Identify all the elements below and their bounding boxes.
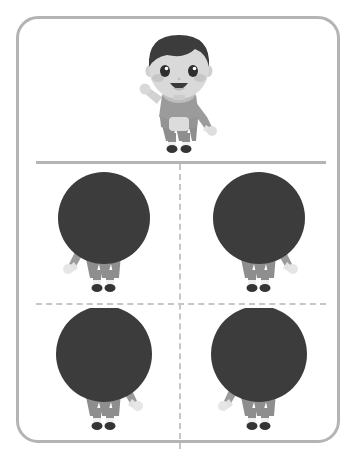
silhouette-figure-svg: [41, 170, 165, 302]
silhouette-figure-svg: [41, 308, 165, 440]
silhouette-figure-svg: [196, 308, 320, 440]
head: [149, 35, 209, 100]
shoes: [167, 145, 192, 153]
head-cover-circle: [211, 308, 307, 402]
choice-bottom-left[interactable]: [41, 308, 165, 440]
example-panel: [19, 19, 337, 161]
choice-top-right[interactable]: [196, 170, 320, 302]
shoes: [247, 284, 271, 292]
choice-top-left[interactable]: [41, 170, 165, 302]
cartoon-boy-example[interactable]: [132, 31, 226, 155]
shoes: [247, 422, 271, 430]
dashed-divider-vertical: [179, 164, 181, 449]
answer-grid: [19, 164, 337, 440]
worksheet-frame: [16, 16, 340, 443]
boy-figure-svg: [132, 31, 226, 155]
silhouette-figure-svg: [196, 170, 320, 302]
pants: [160, 117, 198, 141]
dashed-divider-horizontal: [36, 303, 326, 305]
worksheet-canvas: [0, 0, 356, 457]
shoes: [92, 284, 116, 292]
head-cover-circle: [58, 172, 150, 264]
shoes: [92, 422, 116, 430]
head-cover-circle: [213, 172, 305, 264]
choice-bottom-right[interactable]: [196, 308, 320, 440]
head-cover-circle: [56, 308, 152, 402]
